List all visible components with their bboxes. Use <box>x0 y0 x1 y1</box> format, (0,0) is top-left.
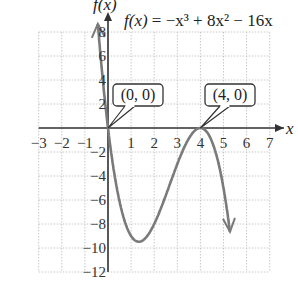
svg-text:5: 5 <box>220 135 228 151</box>
svg-text:−6: −6 <box>90 192 106 208</box>
title-fx: f(x) <box>124 11 148 30</box>
chart-title: f(x) = −x³ + 8x² − 16x <box>124 11 273 30</box>
y-axis-label: f(x) <box>93 0 117 14</box>
svg-text:8: 8 <box>99 24 107 40</box>
svg-text:6: 6 <box>243 135 251 151</box>
svg-text:(0, 0): (0, 0) <box>121 86 156 104</box>
cubic-function-graph: −3−2−112345678642−2−4−6−8−10−12 (0, 0)(4… <box>0 0 298 285</box>
svg-text:4: 4 <box>197 135 205 151</box>
svg-text:−8: −8 <box>90 216 106 232</box>
svg-text:−2: −2 <box>90 144 106 160</box>
svg-text:1: 1 <box>127 135 135 151</box>
svg-text:−12: −12 <box>83 264 106 280</box>
svg-text:−3: −3 <box>31 135 47 151</box>
svg-text:−4: −4 <box>90 168 106 184</box>
svg-text:(4, 0): (4, 0) <box>213 86 248 104</box>
point-annotations: (0, 0)(4, 0) <box>108 84 255 128</box>
title-equation: = −x³ + 8x² − 16x <box>148 11 274 30</box>
svg-text:−10: −10 <box>83 240 106 256</box>
svg-text:2: 2 <box>150 135 158 151</box>
svg-text:7: 7 <box>266 135 274 151</box>
grid <box>39 32 270 272</box>
svg-text:−2: −2 <box>54 135 70 151</box>
svg-text:6: 6 <box>99 48 107 64</box>
x-axis-label: x <box>285 119 294 138</box>
function-curve <box>92 24 235 242</box>
svg-text:4: 4 <box>99 72 107 88</box>
svg-text:3: 3 <box>174 135 182 151</box>
svg-text:2: 2 <box>99 96 107 112</box>
